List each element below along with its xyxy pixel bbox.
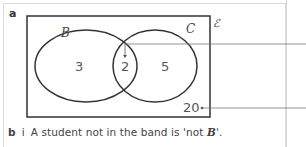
caption-set-name: B — [207, 126, 216, 138]
region-c-only-value: 5 — [161, 59, 169, 74]
venn-diagram: B C ℰ 3 2 5 20 — [0, 0, 306, 147]
caption-subpart: i — [22, 126, 25, 138]
region-b-only-value: 3 — [75, 59, 83, 74]
caption-text: A student not in the band is 'not — [31, 126, 207, 138]
set-b-label: B — [60, 26, 70, 40]
arrowhead-icon — [123, 55, 127, 58]
region-outside-value: 20 — [183, 100, 200, 115]
set-c-label: C — [186, 22, 195, 36]
question-caption: biA student not in the band is 'not B'. — [8, 126, 222, 138]
caption-text-end: '. — [216, 126, 222, 138]
region-b-and-c-value: 2 — [121, 59, 129, 74]
caption-part: b — [8, 126, 16, 138]
pointer-dot — [201, 107, 204, 110]
universal-set-symbol: ℰ — [213, 17, 221, 30]
